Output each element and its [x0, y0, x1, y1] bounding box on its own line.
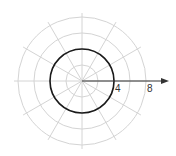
grid-ray	[48, 81, 82, 140]
arrowhead-icon	[161, 78, 169, 84]
grid-ray	[23, 81, 82, 115]
radius-label-4: 4	[115, 83, 121, 94]
polar-graph: 4 8	[0, 0, 176, 156]
grid-ray	[48, 22, 82, 81]
grid-ray	[23, 47, 82, 81]
grid-ray	[82, 47, 141, 81]
radius-label-8: 8	[147, 83, 153, 94]
polar-axis	[82, 78, 169, 84]
grid-ray	[82, 81, 141, 115]
grid-ray	[82, 22, 116, 81]
grid-ray	[82, 81, 116, 140]
